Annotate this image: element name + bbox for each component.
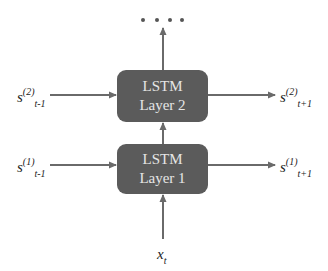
layer1-input-label: s(1)t-1 [17, 156, 46, 179]
continuation-dot [180, 18, 184, 22]
continuation-dot [168, 18, 172, 22]
layer2-output-label: s(2)t+1 [280, 86, 312, 109]
box-title: LSTM [142, 150, 182, 169]
layer1-output-label: s(1)t+1 [280, 156, 312, 179]
layer2-input-label: s(2)t-1 [17, 86, 46, 109]
lstm-stack-diagram: LSTM Layer 2 LSTM Layer 1 s(2)t-1 s(2)t+… [0, 0, 328, 271]
arrows-layer [0, 0, 328, 271]
box-title: LSTM [142, 77, 182, 96]
input-label: xt [157, 246, 166, 266]
continuation-dot [155, 18, 159, 22]
box-subtitle: Layer 2 [139, 96, 185, 115]
continuation-dot [141, 18, 145, 22]
lstm-layer-2-box: LSTM Layer 2 [117, 70, 208, 122]
box-subtitle: Layer 1 [139, 169, 185, 188]
lstm-layer-1-box: LSTM Layer 1 [117, 144, 208, 194]
